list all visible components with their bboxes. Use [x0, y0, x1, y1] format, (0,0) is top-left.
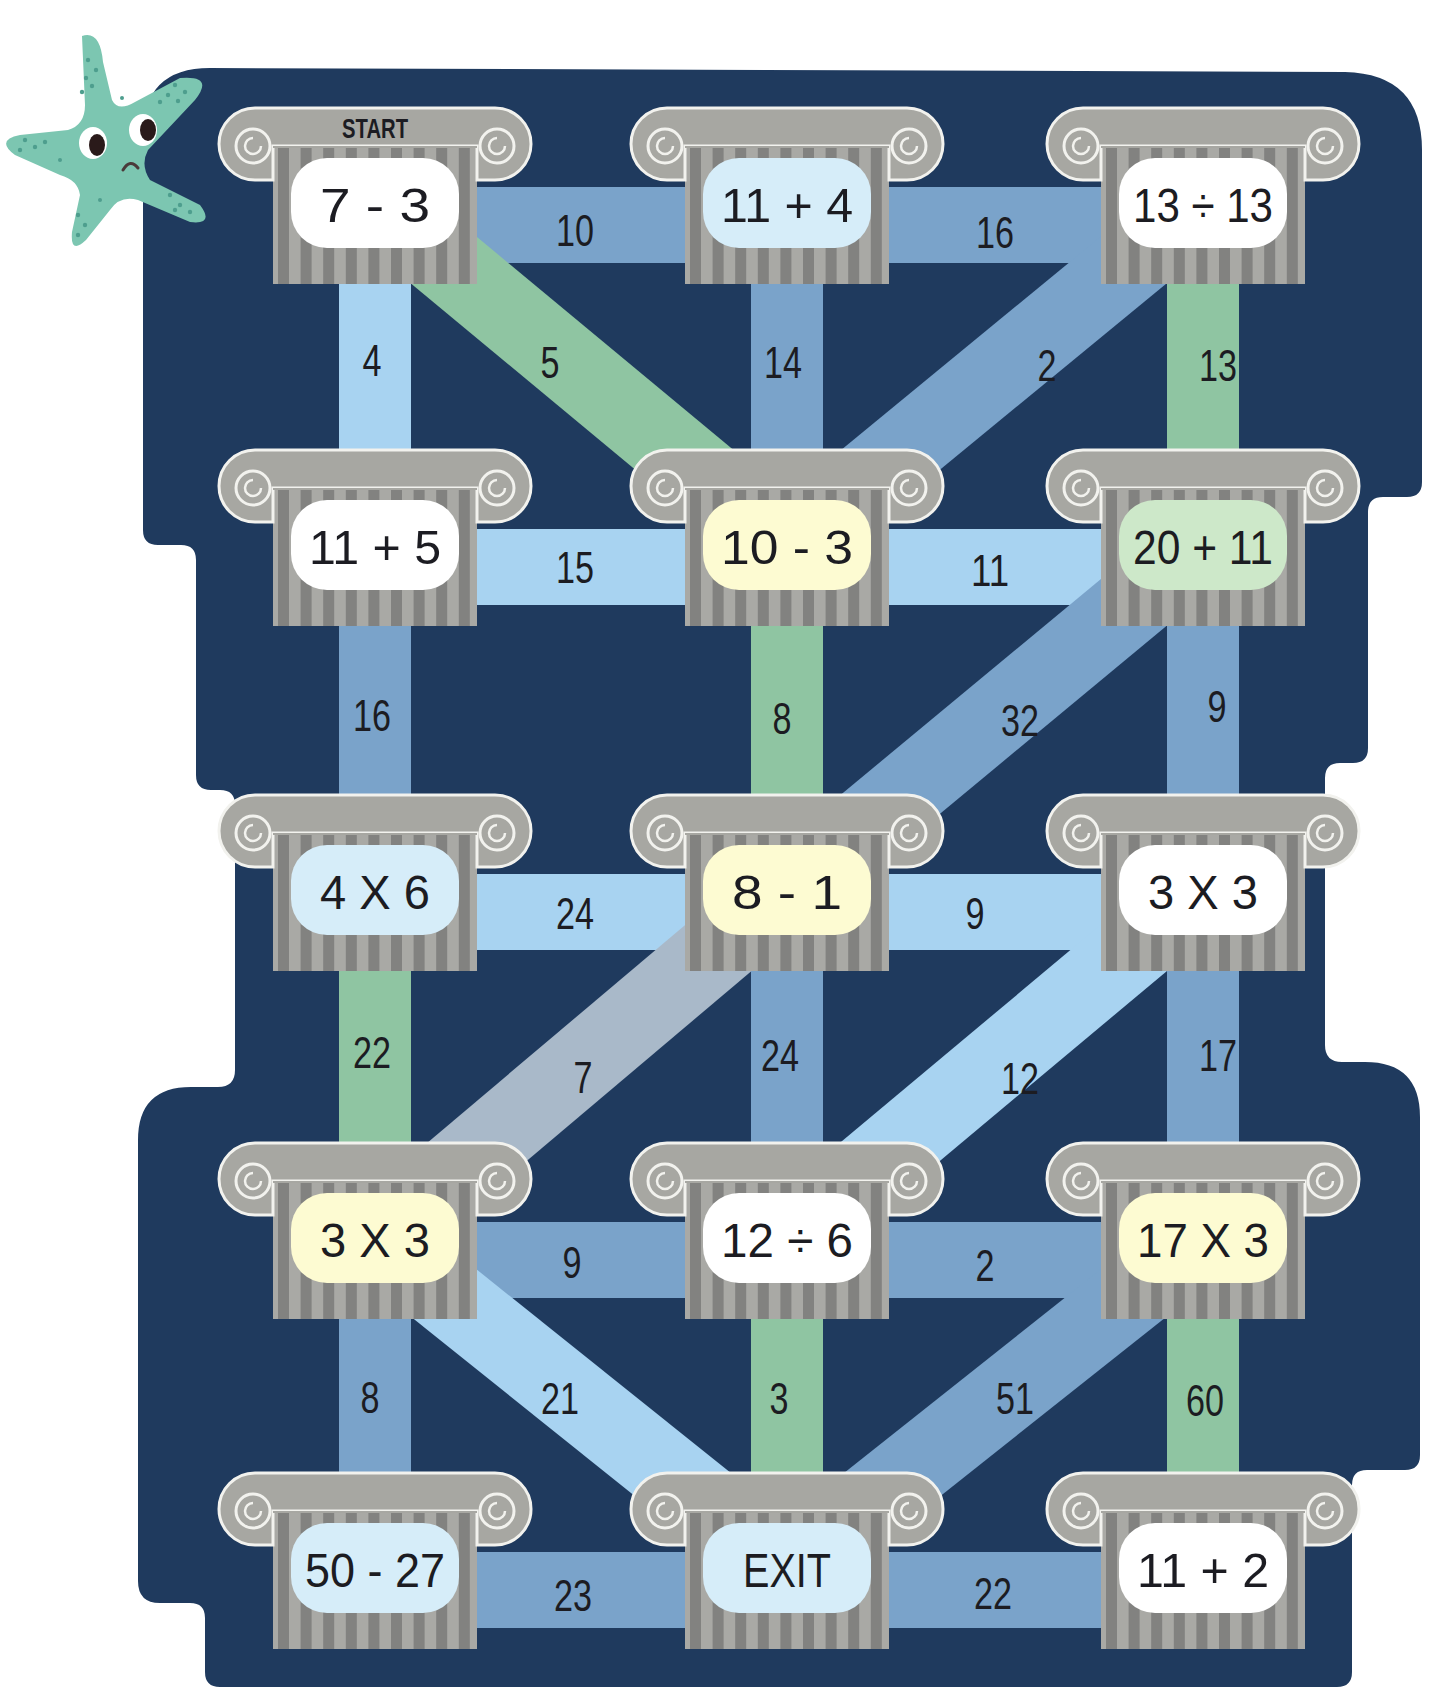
node-expression: 7 - 3: [320, 179, 430, 232]
path-value: 17: [1199, 1031, 1237, 1080]
path-value: 22: [353, 1028, 391, 1077]
path-value: 7: [574, 1053, 593, 1102]
path-value: 9: [1208, 682, 1227, 731]
path-value: 5: [541, 338, 560, 387]
pillar-flute: [459, 143, 470, 284]
capital-seam: [685, 488, 889, 490]
pillar-flute: [278, 1508, 289, 1649]
path-value: 8: [361, 1373, 380, 1422]
path-value: 16: [976, 208, 1014, 257]
capital-seam: [685, 833, 889, 835]
path-value: 8: [773, 694, 792, 743]
path-value: 12: [1001, 1054, 1039, 1103]
pillar-flute: [1106, 1508, 1117, 1649]
pillar-flute: [871, 1508, 882, 1649]
node-expression: 13 ÷ 13: [1133, 179, 1273, 232]
exit-label: EXIT: [743, 1544, 831, 1597]
node-expression: 11 + 2: [1137, 1544, 1269, 1597]
start-label: START: [342, 113, 408, 144]
path-value: 11: [971, 546, 1009, 595]
path-value: 9: [563, 1238, 582, 1287]
path-value: 13: [1199, 341, 1237, 390]
pillar-flute: [1106, 830, 1117, 971]
pillar-flute: [278, 1178, 289, 1319]
pillar-flute: [1106, 485, 1117, 626]
pillar-flute: [1106, 1178, 1117, 1319]
pillar-flute: [459, 485, 470, 626]
pillar-flute: [459, 830, 470, 971]
capital-seam: [1101, 146, 1305, 148]
node-expression: 17 X 3: [1137, 1214, 1269, 1267]
path-value: 51: [996, 1374, 1034, 1423]
path-value: 24: [761, 1031, 799, 1080]
node-expression: 11 + 4: [721, 179, 853, 232]
pillar-flute: [278, 143, 289, 284]
maze-board: 7 - 3START11 + 413 ÷ 1311 + 510 - 320 + …: [0, 0, 1436, 1689]
pillar-flute: [871, 485, 882, 626]
pillar-flute: [690, 143, 701, 284]
pillar-flute: [690, 830, 701, 971]
pillar-flute: [1287, 485, 1298, 626]
pillar-flute: [1287, 830, 1298, 971]
capital-seam: [273, 488, 477, 490]
capital-seam: [1101, 1181, 1305, 1183]
node-expression: 3 X 3: [320, 1214, 430, 1267]
pillar-flute: [690, 485, 701, 626]
capital-seam: [685, 146, 889, 148]
node-expression: 50 - 27: [305, 1544, 445, 1597]
pillar-flute: [278, 830, 289, 971]
path-value: 22: [974, 1569, 1012, 1618]
capital-seam: [273, 833, 477, 835]
node-expression: 3 X 3: [1148, 866, 1258, 919]
capital-seam: [273, 1181, 477, 1183]
node-expression: 12 ÷ 6: [721, 1214, 853, 1267]
path-value: 14: [764, 338, 802, 387]
pillar-flute: [871, 830, 882, 971]
capital-seam: [273, 146, 477, 148]
path-value: 9: [966, 889, 985, 938]
pillar-flute: [278, 485, 289, 626]
path-value: 21: [541, 1374, 579, 1423]
pillar-flute: [459, 1178, 470, 1319]
pillar-flute: [459, 1508, 470, 1649]
path-value: 24: [556, 889, 594, 938]
node-expression: 20 + 11: [1133, 521, 1273, 574]
path-value: 15: [556, 543, 594, 592]
path-value: 4: [363, 336, 382, 385]
path-value: 16: [353, 691, 391, 740]
pillar-flute: [1106, 143, 1117, 284]
path-value: 23: [554, 1571, 592, 1620]
capital-seam: [685, 1181, 889, 1183]
capital-seam: [1101, 833, 1305, 835]
pillar-flute: [1287, 143, 1298, 284]
path-value: 32: [1001, 696, 1039, 745]
path-value: 3: [770, 1374, 789, 1423]
node-expression: 10 - 3: [721, 521, 853, 574]
pillar-flute: [690, 1508, 701, 1649]
node-expression: 11 + 5: [309, 521, 441, 574]
pillar-flute: [871, 143, 882, 284]
node-expression: 4 X 6: [320, 866, 430, 919]
capital-seam: [685, 1511, 889, 1513]
path-value: 10: [556, 206, 594, 255]
path-value: 2: [976, 1241, 995, 1290]
capital-seam: [1101, 1511, 1305, 1513]
capital-seam: [273, 1511, 477, 1513]
path-value: 60: [1186, 1376, 1224, 1425]
pillar-flute: [1287, 1178, 1298, 1319]
capital-seam: [1101, 488, 1305, 490]
path-value: 2: [1038, 341, 1057, 390]
pillar-flute: [871, 1178, 882, 1319]
pillar-flute: [690, 1178, 701, 1319]
node-expression: 8 - 1: [732, 866, 842, 919]
pillar-flute: [1287, 1508, 1298, 1649]
